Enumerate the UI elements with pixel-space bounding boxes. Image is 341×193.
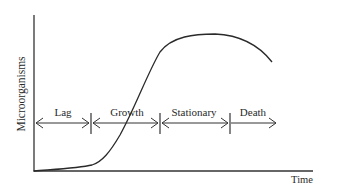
growth-arrow bbox=[93, 118, 158, 128]
stationary-arrow bbox=[162, 118, 228, 128]
growth-curve-diagram: Microorganisms Time Lag Growth Stationar… bbox=[0, 0, 341, 193]
growth-curve bbox=[34, 34, 272, 171]
y-axis-label: Microorganisms bbox=[15, 56, 28, 132]
x-axis-label: Time bbox=[291, 174, 313, 185]
phase-label-death: Death bbox=[240, 106, 267, 118]
phase-label-stationary: Stationary bbox=[171, 106, 217, 118]
lag-arrow bbox=[36, 118, 89, 128]
phase-label-growth: Growth bbox=[110, 106, 144, 118]
phase-label-lag: Lag bbox=[54, 106, 72, 118]
death-arrow bbox=[231, 118, 276, 128]
